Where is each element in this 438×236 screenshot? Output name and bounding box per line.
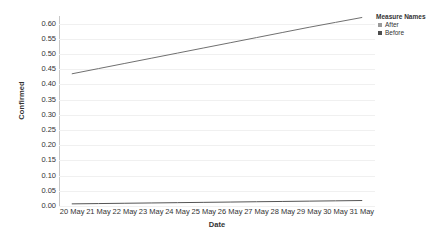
x-axis-tick-labels: 20 May21 May22 May23 May24 May25 May26 M… xyxy=(59,207,375,219)
plot-area xyxy=(59,16,375,206)
x-axis-title: Date xyxy=(59,220,375,229)
series-lines xyxy=(59,16,375,206)
legend-item-after[interactable]: After xyxy=(376,22,436,29)
legend-swatch-icon xyxy=(378,23,382,27)
x-axis-tick-label: 26 May xyxy=(218,207,243,216)
x-axis-tick-label: 31 May xyxy=(350,207,375,216)
y-axis-tick-label: 0.00 xyxy=(41,202,56,210)
series-line-after xyxy=(72,18,362,74)
y-axis-tick-label: 0.45 xyxy=(41,65,56,73)
legend-item-before[interactable]: Before xyxy=(376,30,436,37)
x-axis-tick-label: 25 May xyxy=(192,207,217,216)
y-axis-tick-label: 0.30 xyxy=(41,111,56,119)
y-axis-tick-label: 0.40 xyxy=(41,81,56,89)
legend-item-label: After xyxy=(385,22,399,29)
y-axis-tick-label: 0.10 xyxy=(41,172,56,180)
line-chart: Confirmed 0.000.050.100.150.200.250.300.… xyxy=(0,0,438,236)
x-axis-tick-label: 22 May xyxy=(113,207,138,216)
legend: Measure Names AfterBefore xyxy=(376,13,436,36)
x-axis-tick-label: 21 May xyxy=(86,207,111,216)
x-axis-tick-label: 30 May xyxy=(323,207,348,216)
x-axis-tick-label: 24 May xyxy=(165,207,190,216)
legend-items: AfterBefore xyxy=(376,22,436,36)
x-axis-tick-label: 28 May xyxy=(271,207,296,216)
x-axis-tick-label: 20 May xyxy=(60,207,85,216)
legend-swatch-icon xyxy=(378,31,382,35)
y-axis-tick-label: 0.50 xyxy=(41,50,56,58)
y-axis-tick-labels: 0.000.050.100.150.200.250.300.350.400.45… xyxy=(26,22,56,202)
y-axis-tick-label: 0.20 xyxy=(41,141,56,149)
x-axis-tick-label: 27 May xyxy=(244,207,269,216)
y-axis-tick-label: 0.35 xyxy=(41,96,56,104)
x-axis-tick-label: 29 May xyxy=(297,207,322,216)
x-axis-tick-label: 23 May xyxy=(139,207,164,216)
series-line-before xyxy=(72,201,362,204)
y-axis-tick-label: 0.55 xyxy=(41,35,56,43)
legend-title: Measure Names xyxy=(376,13,436,20)
y-axis-tick-label: 0.15 xyxy=(41,157,56,165)
y-axis-tick-label: 0.60 xyxy=(41,20,56,28)
legend-item-label: Before xyxy=(385,30,404,37)
y-axis-title-label: Confirmed xyxy=(17,81,26,119)
y-axis-tick-label: 0.05 xyxy=(41,187,56,195)
y-axis-tick-label: 0.25 xyxy=(41,126,56,134)
